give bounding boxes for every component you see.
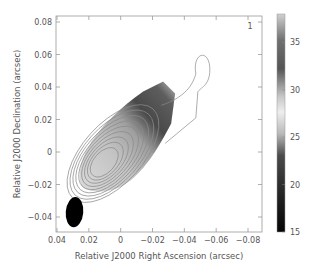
- y-tick-label: 0.08: [34, 18, 52, 27]
- y-tick-label: −0.04: [27, 213, 52, 222]
- x-tick-label: −0.06: [204, 236, 229, 245]
- beam-ellipse: [64, 196, 84, 228]
- y-tick-label: −0.02: [27, 181, 52, 190]
- chart: 0.040.020−0.02−0.04−0.06−0.080.080.060.0…: [0, 0, 315, 276]
- colorbar-tick-label: 20: [290, 181, 300, 190]
- colorbar-tick-label: 25: [290, 133, 300, 142]
- x-tick-label: 0.02: [80, 236, 98, 245]
- colorbar: [277, 14, 285, 232]
- colorbar-tick-label: 35: [290, 38, 300, 47]
- colorbar-tick-label: 15: [290, 228, 300, 237]
- y-tick-label: 0: [47, 148, 52, 157]
- x-tick-label: −0.02: [140, 236, 165, 245]
- beam-layer: [64, 196, 84, 228]
- y-tick-label: 0.06: [34, 51, 52, 60]
- y-tick-label: 0.04: [34, 83, 52, 92]
- y-tick-label: 0.02: [34, 116, 52, 125]
- x-tick-label: −0.08: [236, 236, 261, 245]
- y-axis-label: Relative J2000 Declination (arcsec): [12, 50, 22, 199]
- colorbar-tick-label: 30: [290, 86, 300, 95]
- x-axis-label: Relative J2000 Right Ascension (arcsec): [75, 251, 244, 261]
- plot-area: [51, 55, 210, 228]
- x-tick-label: 0: [118, 236, 123, 245]
- x-tick-label: −0.04: [172, 236, 197, 245]
- x-tick-label: 0.04: [48, 236, 66, 245]
- panel-label: 1: [247, 22, 252, 31]
